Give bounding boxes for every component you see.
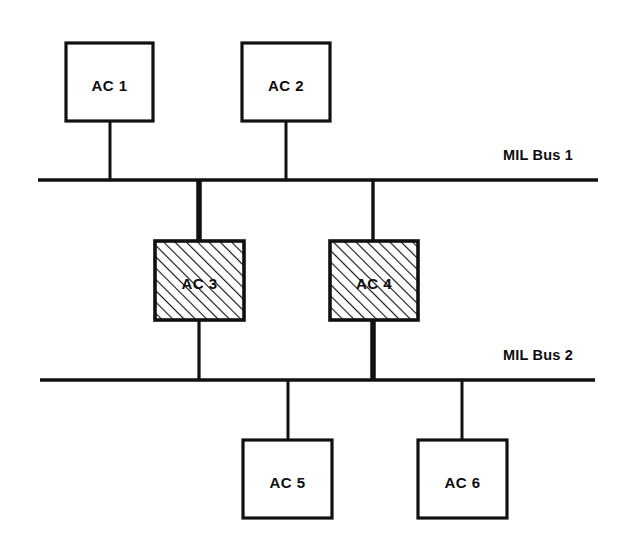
diagram-canvas: AC 1AC 2AC 3AC 4AC 5AC 6 MIL Bus 1MIL Bu… [0,0,630,556]
node-label-ac-5: AC 5 [270,474,306,491]
node-boxes-group [66,43,507,518]
node-label-ac-4: AC 4 [356,275,392,292]
mil-bus-network-diagram: AC 1AC 2AC 3AC 4AC 5AC 6 MIL Bus 1MIL Bu… [0,0,630,556]
node-label-ac-1: AC 1 [92,77,128,94]
node-label-ac-3: AC 3 [182,275,218,292]
bus-label-mil-bus-1: MIL Bus 1 [503,147,573,163]
node-label-ac-6: AC 6 [445,474,481,491]
bus-label-mil-bus-2: MIL Bus 2 [503,347,573,363]
node-label-ac-2: AC 2 [268,77,304,94]
